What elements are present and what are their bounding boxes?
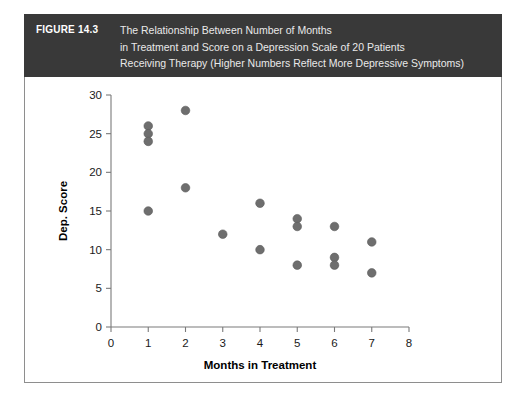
x-tick-label-2: 2 — [182, 337, 188, 349]
data-point — [293, 214, 302, 223]
y-tick-label-5: 5 — [96, 282, 102, 294]
scatter-chart: 051015202530 012345678 Months in Treatme… — [25, 77, 503, 383]
figure-caption-line-3: Receiving Therapy (Higher Numbers Reflec… — [120, 55, 494, 72]
y-axis-title: Dep. Score — [57, 181, 69, 241]
y-tick-label-0: 0 — [96, 321, 102, 333]
data-point — [367, 269, 376, 278]
chart-svg: 051015202530 012345678 Months in Treatme… — [25, 77, 503, 383]
figure-number-label: FIGURE 14.3 — [36, 24, 98, 35]
y-tick-label-10: 10 — [89, 244, 102, 256]
x-tick-label-6: 6 — [331, 337, 337, 349]
data-point — [144, 129, 153, 138]
data-point — [144, 207, 153, 216]
data-point — [218, 230, 227, 239]
data-point — [256, 245, 265, 254]
y-tick-label-20: 20 — [89, 166, 102, 178]
x-tick-label-1: 1 — [145, 337, 151, 349]
data-point — [293, 222, 302, 231]
data-points-layer — [144, 106, 376, 277]
y-tick-label-15: 15 — [89, 205, 102, 217]
x-axis-title: Months in Treatment — [204, 359, 317, 371]
y-tick-label-25: 25 — [89, 128, 102, 140]
data-point — [293, 261, 302, 270]
data-point — [256, 199, 265, 208]
figure-header-bar: FIGURE 14.3 The Relationship Between Num… — [24, 14, 502, 77]
figure-caption: The Relationship Between Number of Month… — [120, 22, 494, 72]
figure-caption-line-2: in Treatment and Score on a Depression S… — [120, 39, 494, 56]
x-tick-label-4: 4 — [257, 337, 264, 349]
data-point — [144, 122, 153, 131]
data-point — [330, 253, 339, 262]
data-point — [144, 137, 153, 146]
data-point — [367, 238, 376, 247]
x-tick-label-3: 3 — [220, 337, 226, 349]
y-tick-label-30: 30 — [89, 89, 102, 101]
x-tick-label-7: 7 — [369, 337, 375, 349]
data-point — [181, 184, 190, 193]
x-axis: 012345678 — [108, 327, 412, 349]
x-tick-label-8: 8 — [406, 337, 412, 349]
data-point — [330, 261, 339, 270]
data-point — [330, 222, 339, 231]
y-axis: 051015202530 — [89, 89, 111, 333]
plot-frame: 051015202530 012345678 Months in Treatme… — [24, 77, 502, 383]
x-tick-label-0: 0 — [108, 337, 114, 349]
figure-caption-line-1: The Relationship Between Number of Month… — [120, 22, 494, 39]
data-point — [181, 106, 190, 115]
figure-root: FIGURE 14.3 The Relationship Between Num… — [0, 0, 526, 408]
x-tick-label-5: 5 — [294, 337, 300, 349]
